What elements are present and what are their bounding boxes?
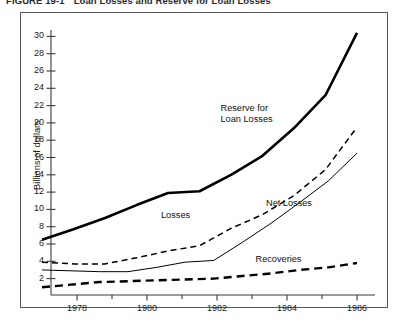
series-annotation-net-losses: Net Losses	[266, 198, 312, 209]
series-line-recoveries	[42, 263, 357, 287]
y-axis-tick-label: 12	[20, 186, 44, 196]
y-axis-tick-label: 10	[20, 203, 44, 213]
series-annotation-losses: Losses	[161, 210, 190, 221]
line-chart-svg	[0, 0, 405, 324]
y-axis-tick-label: 28	[20, 48, 44, 58]
y-axis-tick-label: 8	[20, 221, 44, 231]
y-axis-tick-label: 26	[20, 65, 44, 75]
y-axis-tick-label: 18	[20, 134, 44, 144]
series-annotation-recoveries: Recoveries	[256, 254, 302, 265]
x-axis-tick-label: 1982	[197, 303, 237, 313]
x-axis-tick-label: 1986	[337, 303, 377, 313]
x-axis-tick-label: 1978	[57, 303, 97, 313]
chart-plot-area	[0, 0, 405, 324]
x-axis-tick-label: 1984	[267, 303, 307, 313]
y-axis-tick-label: 24	[20, 82, 44, 92]
series-line-losses	[42, 127, 357, 264]
y-axis-tick-label: 2	[20, 273, 44, 283]
figure-container: FIGURE 19-1Loan Losses and Reserve for L…	[0, 0, 405, 324]
y-axis-tick-label: 4	[20, 255, 44, 265]
y-axis-tick-label: 14	[20, 169, 44, 179]
series-annotation-reserve-for-loan-losses: Reserve forLoan Losses	[221, 103, 273, 124]
y-axis-tick-label: 30	[20, 30, 44, 40]
y-axis-tick-label: 16	[20, 152, 44, 162]
series-line-net-losses	[42, 153, 357, 272]
y-axis-tick-label: 6	[20, 238, 44, 248]
x-axis-tick-label: 1980	[127, 303, 167, 313]
y-axis-tick-label: 22	[20, 100, 44, 110]
y-axis-tick-label: 20	[20, 117, 44, 127]
